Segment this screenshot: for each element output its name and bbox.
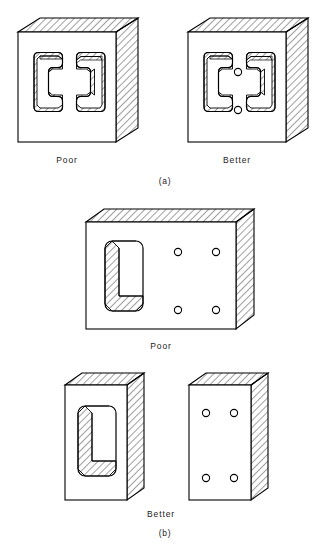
drilled-hole	[234, 68, 241, 75]
drilled-hole	[234, 106, 241, 113]
panel-b-poor-block	[86, 209, 254, 329]
drilled-hole	[174, 248, 181, 255]
right-face	[251, 373, 268, 500]
panel-b-better-holes-block	[189, 373, 268, 500]
figure-root: Poor Better (a) Poor Better (b)	[0, 0, 331, 546]
panel-label-a: (a)	[159, 176, 172, 186]
right-face	[116, 18, 138, 142]
caption-a-poor: Poor	[56, 155, 78, 165]
caption-a-better: Better	[223, 155, 251, 165]
caption-b-better: Better	[147, 509, 175, 519]
panel-a-better-block	[188, 18, 308, 142]
drilled-hole	[230, 474, 237, 481]
drilled-hole	[212, 248, 219, 255]
panel-b-better-slot-block	[65, 373, 144, 500]
drilled-hole	[212, 306, 219, 313]
rounded-slot	[78, 406, 116, 476]
drilled-hole	[174, 306, 181, 313]
front-face	[189, 385, 251, 500]
top-face	[86, 209, 254, 222]
right-face	[286, 18, 308, 142]
drilled-hole	[202, 474, 209, 481]
engineering-figure-svg	[0, 0, 331, 546]
right-face	[236, 209, 254, 329]
rounded-slot	[105, 241, 143, 311]
panel-label-b: (b)	[159, 528, 172, 538]
panel-a-poor-block	[18, 18, 138, 142]
drilled-hole	[202, 409, 209, 416]
drilled-hole	[230, 409, 237, 416]
caption-b-poor: Poor	[150, 341, 172, 351]
right-face	[127, 373, 144, 500]
